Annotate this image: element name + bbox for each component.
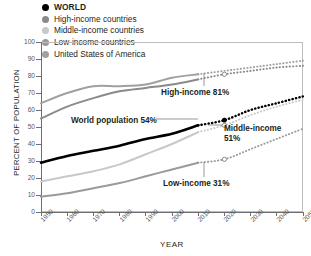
annotation-world: World population 54% xyxy=(71,116,157,126)
series-line-projected xyxy=(198,96,303,125)
annotation-middle-income-line1: Middle-income xyxy=(224,124,281,133)
annotation-low-income: Low-income 31% xyxy=(163,179,229,189)
series-value-marker xyxy=(222,72,226,76)
series-value-marker xyxy=(222,118,226,122)
annotation-middle-income-line2: 51% xyxy=(224,134,240,143)
chart-root: WORLD High-income countries Middle-incom… xyxy=(0,0,311,256)
annotation-high-income: High-income 81% xyxy=(161,88,229,98)
annotation-middle-income: Middle-income 51% xyxy=(224,124,286,143)
series-line-projected xyxy=(198,61,303,75)
series-line-historical xyxy=(41,125,198,162)
series-value-marker xyxy=(222,157,226,161)
